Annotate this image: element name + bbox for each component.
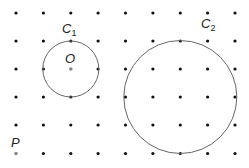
grid-dot bbox=[233, 67, 236, 70]
labeled-points bbox=[14, 67, 72, 155]
grid-dot bbox=[233, 123, 236, 126]
grid-dot bbox=[97, 152, 100, 155]
grid-dot bbox=[124, 152, 127, 155]
grid-dot bbox=[14, 11, 17, 14]
grid-dot bbox=[206, 123, 209, 126]
grid-dot bbox=[42, 95, 45, 98]
grid-dot bbox=[14, 39, 17, 42]
label-p: P bbox=[11, 135, 20, 150]
point-p bbox=[14, 152, 18, 156]
grid-dot bbox=[42, 67, 45, 70]
grid-dot bbox=[14, 95, 17, 98]
grid-dot bbox=[151, 67, 154, 70]
grid-dot bbox=[97, 123, 100, 126]
grid-dot bbox=[206, 67, 209, 70]
grid-dot bbox=[14, 123, 17, 126]
grid-dot bbox=[42, 11, 45, 14]
grid-dot bbox=[206, 95, 209, 98]
grid-dot bbox=[69, 123, 72, 126]
label-o: O bbox=[65, 51, 75, 66]
grid-dot bbox=[179, 123, 182, 126]
geometry-figure: C1 O C2 P bbox=[0, 0, 249, 168]
grid-dot bbox=[179, 95, 182, 98]
grid-dot bbox=[124, 39, 127, 42]
grid-dot bbox=[179, 67, 182, 70]
grid-dot bbox=[206, 11, 209, 14]
grid-dot bbox=[233, 95, 236, 98]
grid-dot bbox=[233, 152, 236, 155]
grid-dot bbox=[97, 95, 100, 98]
grid-dot bbox=[206, 152, 209, 155]
grid-dot bbox=[124, 123, 127, 126]
label-c2: C2 bbox=[201, 16, 215, 33]
label-c1: C1 bbox=[62, 21, 76, 38]
grid-dot bbox=[42, 123, 45, 126]
grid-dot bbox=[206, 39, 209, 42]
point-o bbox=[69, 67, 73, 71]
grid-dot bbox=[151, 39, 154, 42]
grid-dot bbox=[97, 39, 100, 42]
grid-dot bbox=[151, 11, 154, 14]
grid-dot bbox=[151, 152, 154, 155]
grid-dot bbox=[14, 67, 17, 70]
grid-dot bbox=[151, 123, 154, 126]
grid-dot bbox=[233, 11, 236, 14]
grid-dot bbox=[124, 11, 127, 14]
grid-dot bbox=[42, 152, 45, 155]
grid-dot bbox=[124, 67, 127, 70]
grid-dot bbox=[69, 152, 72, 155]
grid-dot bbox=[97, 11, 100, 14]
grid-dot bbox=[69, 11, 72, 14]
grid-dot bbox=[151, 95, 154, 98]
diagram-canvas: C1 O C2 P bbox=[0, 0, 249, 168]
grid-dot bbox=[42, 39, 45, 42]
grid-dot bbox=[124, 95, 127, 98]
grid-dot bbox=[179, 11, 182, 14]
grid-dot bbox=[233, 39, 236, 42]
